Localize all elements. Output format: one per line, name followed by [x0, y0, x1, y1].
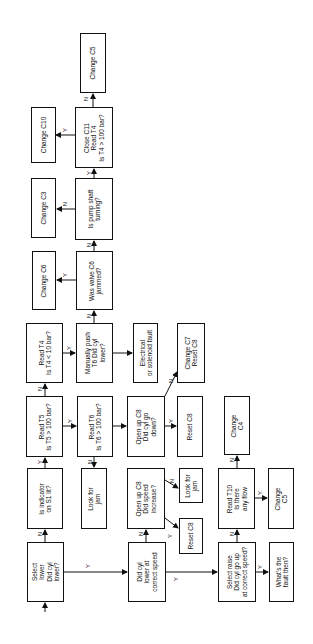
edge-label: Y	[85, 564, 91, 568]
node-look-jam-right: Look forjam	[179, 468, 203, 503]
edge-label: Y	[67, 419, 73, 423]
edge-label: N	[168, 379, 174, 383]
node-text: What's the	[274, 557, 281, 588]
node-text: Change C5	[89, 47, 96, 80]
node-text: Manually push	[83, 332, 90, 374]
node-text: Reset C8	[187, 522, 194, 549]
node-text: jammed?	[95, 261, 102, 301]
node-text: Is there	[233, 484, 240, 512]
node-text: Reset C8	[191, 337, 198, 370]
node-change-c3: Change C3	[31, 178, 56, 238]
node-text: or solenoid fault	[146, 330, 153, 376]
node-did-cyl-lower: Did cyllower atcorrect speed	[128, 542, 166, 602]
node-change-c10: Change C10	[31, 107, 56, 163]
node-text: Is T5 > 100 bar?	[45, 403, 52, 450]
edge-label: N	[83, 97, 89, 101]
node-text: increase?	[150, 481, 157, 516]
node-pump-shaft: Is pump shaftturning?	[75, 178, 113, 240]
node-text: Change C6	[40, 264, 47, 297]
node-electrical-fault: Electricalor solenoid fault	[133, 323, 158, 383]
edge-label: Y	[37, 460, 43, 464]
node-text: Did speed	[142, 481, 149, 516]
node-text: Did cyl go	[142, 409, 149, 444]
node-text: Open up C8	[135, 481, 142, 516]
node-text: Close C11	[83, 114, 90, 161]
node-open-c8-down: Open up C8Did cyl godown?	[127, 396, 165, 457]
node-text: lower	[38, 562, 45, 582]
node-change-c5-low: ChangeC5	[268, 468, 294, 529]
edge-label: Y	[167, 534, 173, 538]
edge-label: N	[86, 243, 92, 247]
node-text: Read T6	[88, 403, 95, 450]
edge-label: Y	[62, 128, 68, 132]
node-text: jam	[94, 487, 101, 511]
node-text: T6 Did cyl	[91, 332, 98, 374]
node-text: Change	[274, 487, 281, 510]
node-text: Select raise	[226, 547, 233, 597]
node-text: Change C10	[40, 117, 47, 154]
node-text: on S1 lit?	[45, 483, 52, 514]
node-select-raise: Select raiseDid cyl go upat correct spee…	[218, 542, 256, 602]
edge-label: Y	[66, 346, 72, 350]
node-text: Is pump shaft	[87, 189, 94, 228]
node-reset-c8-top: Reset C8	[177, 396, 203, 457]
edge-label: N	[86, 314, 92, 318]
node-change-c6: Change C6	[32, 251, 56, 310]
node-text: correct speed	[151, 552, 158, 591]
node-valve-c6: Was valve C6jammed?	[76, 251, 113, 310]
node-text: Open up C8	[135, 409, 142, 444]
node-change-c4: ChangeC4	[224, 396, 250, 455]
node-open-c8-speed: Open up C8Did speedincrease?	[127, 468, 165, 529]
node-text: Did cyl go up	[233, 547, 240, 597]
node-change-c7: Change C7Reset C8	[177, 323, 205, 383]
node-text: Read T10	[225, 484, 232, 512]
edge-label: Y	[62, 273, 68, 277]
node-look-jam-left: Look forjam	[81, 468, 107, 529]
node-text: fault then?	[282, 557, 289, 588]
node-text: Did cyl	[136, 552, 143, 591]
node-text: Change C3	[40, 192, 47, 225]
edge-label: Y	[257, 491, 263, 495]
node-text: down?	[150, 409, 157, 444]
edge-label: Y	[86, 171, 92, 175]
node-text: C4	[237, 414, 244, 437]
node-change-c5-top: Change C5	[80, 33, 106, 93]
node-manual-push: Manually pushT6 Did cyllower?	[76, 323, 113, 383]
node-reset-c8-low: Reset C8	[179, 518, 203, 554]
node-text: Is T4 < 10 bar?	[45, 331, 52, 375]
edge-label: N	[37, 532, 43, 536]
node-text: Read T4	[90, 114, 97, 161]
node-text: lower?	[98, 332, 105, 374]
node-text: Read T4	[37, 331, 44, 375]
edge-label: N	[62, 202, 68, 206]
node-read-t6: Read T6Is T6 > 100 bar?	[77, 396, 113, 457]
node-text: Look for	[87, 487, 94, 511]
node-text: Is T6 > 100 bar?	[95, 403, 102, 450]
edge-label: Y	[168, 419, 174, 423]
node-text: lower at	[143, 552, 150, 591]
edge-label: N	[138, 532, 144, 536]
node-text: Is T4 > 100 bar?	[98, 114, 105, 161]
node-text: Read T5	[37, 403, 44, 450]
edge-label: Y	[173, 577, 179, 581]
flowchart-canvas: Change C5 Change C10 Close C11Read T4Is …	[0, 0, 313, 644]
node-text: Is indicator	[38, 483, 45, 514]
node-text: at correct speed?	[241, 547, 248, 597]
node-read-t5: Read T5Is T5 > 100 bar?	[26, 396, 63, 457]
node-text: Did cyl	[46, 562, 53, 582]
node-text: any flow	[240, 484, 247, 512]
edge-label: N	[169, 479, 175, 483]
node-text: turning?	[94, 189, 101, 228]
node-text: Was valve C6	[87, 261, 94, 301]
node-text: Look for	[184, 474, 191, 498]
node-whats-fault: What's thefault then?	[269, 542, 294, 602]
edge-label: N	[37, 387, 43, 391]
node-select-lower: SelectlowerDid cyllower?	[27, 542, 64, 602]
node-text: C5	[281, 487, 288, 510]
edge-label: N	[229, 532, 235, 536]
node-text: Change C7	[184, 337, 191, 370]
node-close-c11: Close C11Read T4Is T4 > 100 bar?	[75, 107, 113, 168]
edge-label: Y	[257, 565, 263, 569]
node-text: lower?	[53, 562, 60, 582]
node-text: Electrical	[138, 330, 145, 376]
